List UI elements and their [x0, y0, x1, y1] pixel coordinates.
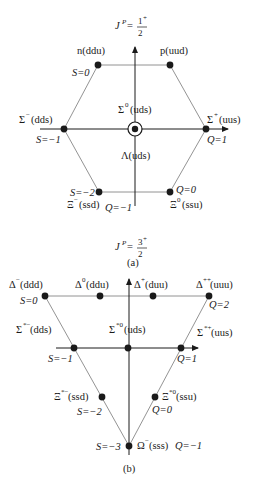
dot-n: [95, 62, 102, 69]
svg-text:(ddd): (ddd): [20, 279, 43, 291]
label-sigma-star-zero: Σ *0 (uds): [109, 321, 146, 336]
label-q1-a: Q=1: [207, 134, 227, 145]
label-n: n(ddu): [77, 45, 105, 57]
svg-text:Σ: Σ: [19, 114, 25, 125]
svg-text:Ξ: Ξ: [54, 391, 61, 402]
svg-text:(ddu): (ddu): [86, 279, 109, 291]
label-xi-star-minus: Ξ *− (ssd): [54, 388, 89, 403]
label-q1-b: Q=1: [177, 353, 197, 364]
label-xi-minus: Ξ − (ssd): [67, 196, 100, 211]
svg-text:(uds): (uds): [130, 104, 152, 116]
label-sigma-star-minus: Σ *− (dds): [16, 321, 52, 336]
label-q0-a: Q=0: [176, 184, 197, 195]
svg-text:Δ: Δ: [196, 279, 203, 290]
svg-text:(uuu): (uuu): [210, 279, 233, 291]
dot-xi-zero: [167, 189, 174, 196]
svg-text:Ξ: Ξ: [162, 391, 169, 402]
label-s0-b: S=0: [20, 295, 38, 306]
caption-a: (a): [127, 257, 139, 269]
dot-delta-plus: [150, 293, 157, 300]
label-s0-a: S=0: [72, 67, 90, 78]
decuplet-triangle: [45, 296, 209, 446]
svg-text:2: 2: [138, 249, 143, 259]
svg-text:(ssd): (ssd): [79, 199, 100, 211]
svg-text:0: 0: [125, 101, 129, 109]
svg-text:0: 0: [177, 196, 181, 204]
caption-b: (b): [123, 463, 136, 475]
dot-sigma-star-plus: [178, 345, 185, 352]
dot-sigma-star-minus: [71, 345, 78, 352]
svg-text:Δ: Δ: [75, 279, 82, 290]
svg-text:J: J: [115, 20, 121, 31]
label-delta-plus: Δ + (duu): [134, 276, 168, 291]
dot-omega-minus: [126, 443, 133, 450]
svg-text:Ω: Ω: [137, 440, 145, 451]
label-delta-zero: Δ 0 (ddu): [75, 276, 109, 291]
label-delta-plusplus: Δ ++ (uuu): [196, 276, 233, 291]
label-delta-minus: Δ − (ddd): [9, 276, 43, 291]
svg-text:Σ: Σ: [16, 324, 22, 335]
panel-b-title: J P = 3 + 2: [115, 235, 147, 259]
dot-sigma-star-zero: [125, 345, 132, 352]
dot-sigma-minus: [61, 126, 68, 133]
svg-text:Ξ: Ξ: [67, 199, 74, 210]
label-sigma-plus: Σ + (uus): [207, 111, 241, 126]
svg-text:+: +: [143, 14, 147, 22]
label-s1-b: S=−1: [48, 353, 73, 364]
label-qm1-a: Q=−1: [105, 202, 132, 213]
label-lambda: Λ(uds): [121, 150, 151, 162]
label-sigma-star-plus: Σ *+ (uus): [197, 324, 233, 339]
svg-text:(dds): (dds): [31, 114, 53, 126]
label-omega-minus: Ω − (sss): [137, 437, 169, 452]
svg-text:=: =: [127, 241, 133, 252]
svg-text:(uus): (uus): [211, 327, 233, 339]
svg-text:Σ: Σ: [207, 114, 213, 125]
svg-text:−: −: [26, 111, 30, 119]
svg-text:Ξ: Ξ: [170, 199, 177, 210]
label-p: p(uud): [160, 45, 188, 57]
label-s1-a: S=−1: [36, 134, 61, 145]
panel-a-title: J P = 1 + 2: [115, 14, 147, 38]
dot-delta-minus: [42, 293, 49, 300]
svg-text:Σ: Σ: [109, 324, 115, 335]
label-sigma-zero: Σ 0 (uds): [118, 101, 152, 116]
svg-text:Δ: Δ: [134, 279, 141, 290]
svg-text:(ssu): (ssu): [182, 199, 203, 211]
label-qm1-b: Q=−1: [175, 440, 202, 451]
svg-text:(dds): (dds): [30, 324, 52, 336]
baryon-multiplet-diagram: J P = 1 + 2 n(ddu) p(uud): [0, 0, 254, 482]
label-s2-a: S=−2: [70, 187, 95, 198]
svg-text:Σ: Σ: [197, 327, 203, 338]
svg-text:+: +: [214, 111, 218, 119]
dot-delta-zero: [97, 293, 104, 300]
dot-xi-star-zero: [152, 394, 159, 401]
dot-sigma0-lambda: [132, 126, 138, 132]
svg-text:(uus): (uus): [219, 114, 241, 126]
svg-text:Δ: Δ: [9, 279, 16, 290]
label-q0-b: Q=0: [152, 404, 173, 415]
dot-p: [167, 62, 174, 69]
svg-text:(duu): (duu): [145, 279, 168, 291]
panel-a-octet: J P = 1 + 2 n(ddu) p(uud): [19, 14, 241, 213]
svg-text:(ssd): (ssd): [68, 391, 89, 403]
svg-text:+: +: [143, 235, 147, 243]
dot-sigma-plus: [203, 126, 210, 133]
dot-xi-minus: [96, 189, 103, 196]
svg-text:(ssu): (ssu): [176, 391, 197, 403]
panel-b-decuplet: J P = 3 + 2 (a) Δ − (ddd): [9, 235, 233, 475]
svg-text:(uds): (uds): [124, 324, 146, 336]
label-s3-b: S=−3: [96, 441, 121, 452]
label-s2-b: S=−2: [77, 406, 102, 417]
svg-text:=: =: [127, 20, 133, 31]
svg-text:J: J: [115, 241, 121, 252]
svg-text:*0: *0: [116, 321, 124, 329]
svg-text:2: 2: [138, 28, 143, 38]
svg-text:(sss): (sss): [149, 440, 169, 452]
svg-text:1: 1: [138, 16, 143, 26]
svg-text:Σ: Σ: [118, 104, 124, 115]
label-xi-star-zero: Ξ *0 (ssu): [162, 388, 197, 403]
label-q2-b: Q=2: [209, 299, 230, 310]
label-sigma-minus: Σ − (dds): [19, 111, 53, 126]
label-xi-zero: Ξ 0 (ssu): [170, 196, 203, 211]
dot-xi-star-minus: [99, 394, 106, 401]
